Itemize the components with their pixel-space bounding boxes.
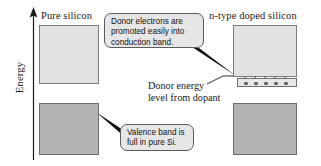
annotation-line: level from dopant: [148, 92, 220, 104]
band-diagram-figure: Energy Pure silicon n-type doped silicon…: [0, 0, 321, 166]
donor-electron: [244, 82, 248, 86]
donor-electron: [264, 82, 268, 86]
column-header-ntype-doped-silicon: n-type doped silicon: [209, 10, 297, 21]
valence-band-pure-silicon: [39, 103, 99, 155]
callout-line: full in pure Si.: [127, 138, 188, 148]
valence-band-ntype-silicon: [233, 103, 297, 155]
conduction-band-pure-silicon: [39, 25, 99, 84]
column-header-pure-silicon: Pure silicon: [41, 10, 92, 21]
callout-line: promoted easily into: [111, 27, 198, 37]
donor-electron: [284, 82, 288, 86]
conduction-band-ntype-silicon: [233, 25, 297, 77]
donor-level-strip: [237, 78, 297, 87]
donor-energy-level-annotation: Donor energy level from dopant: [148, 80, 220, 103]
callout-line: conduction band.: [111, 38, 198, 48]
donor-electron: [254, 82, 258, 86]
donor-electron: [274, 82, 278, 86]
callout-line: Valence band is: [127, 128, 188, 138]
annotation-line: Donor energy: [148, 80, 220, 92]
callout-line: Donor electrons are: [111, 17, 198, 27]
callout-donor-electrons: Donor electrons are promoted easily into…: [104, 13, 204, 48]
energy-axis-label: Energy: [14, 43, 25, 113]
callout-valence-full: Valence band is full in pure Si.: [120, 124, 194, 151]
energy-axis-arrow: [30, 7, 38, 160]
